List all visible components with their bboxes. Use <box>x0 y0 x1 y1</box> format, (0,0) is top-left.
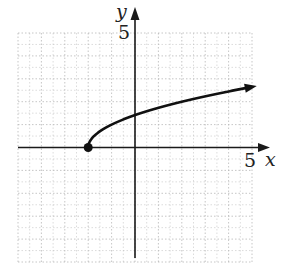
y-axis-tick-label: 5 <box>118 23 130 42</box>
function-curve <box>88 87 251 147</box>
curve-arrow-head <box>244 84 257 93</box>
y-axis-label: y <box>116 2 127 21</box>
graph-plot <box>0 0 285 270</box>
start-point-dot <box>84 143 93 152</box>
x-axis-tick-label: 5 <box>244 151 256 170</box>
x-axis-label: x <box>265 150 276 169</box>
